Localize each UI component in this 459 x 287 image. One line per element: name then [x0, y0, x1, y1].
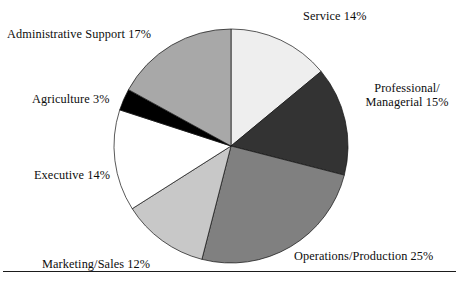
pie-chart-figure: Service 14% Professional/ Managerial 15%… [0, 0, 459, 287]
pie-slices [114, 29, 348, 263]
bottom-divider-rule [3, 271, 456, 272]
pie-label-marketing-sales: Marketing/Sales 12% [42, 257, 150, 271]
pie-label-service: Service 14% [303, 9, 367, 23]
pie-chart-svg [0, 0, 459, 287]
pie-label-administrative-support: Administrative Support 17% [7, 27, 151, 41]
pie-label-professional-line2: Managerial 15% [365, 95, 448, 109]
pie-label-operations-production: Operations/Production 25% [294, 249, 433, 263]
pie-label-professional-managerial: Professional/ Managerial 15% [359, 81, 455, 110]
pie-label-agriculture: Agriculture 3% [32, 92, 110, 106]
pie-label-professional-line1: Professional/ [374, 81, 440, 95]
pie-label-executive: Executive 14% [34, 168, 110, 182]
